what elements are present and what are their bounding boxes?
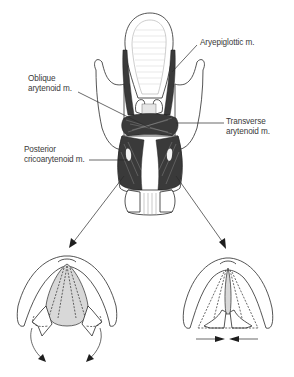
label-transverse-line1: Transverse bbox=[226, 117, 270, 127]
label-oblique-line2: arytenoid m. bbox=[28, 84, 72, 94]
arrowhead-right bbox=[219, 238, 226, 249]
label-posterior-line1: Posterior bbox=[24, 145, 85, 155]
posterior-cricoarytenoid-right bbox=[156, 136, 182, 190]
inset-adduction bbox=[183, 258, 273, 342]
glottis-closed bbox=[225, 268, 231, 314]
arytenoid-left-adducted bbox=[204, 310, 226, 328]
label-transverse-arytenoid: Transverse arytenoid m. bbox=[226, 117, 270, 137]
larynx-posterior-view bbox=[95, 13, 205, 215]
leader-aryepiglottic bbox=[172, 45, 197, 72]
label-transverse-line2: arytenoid m. bbox=[226, 127, 270, 137]
label-posterior-cricoarytenoid: Posterior cricoarytenoid m. bbox=[24, 145, 85, 165]
larynx-diagram bbox=[0, 0, 294, 377]
cricoid-arch-left bbox=[125, 190, 140, 212]
inset-abduction bbox=[17, 256, 117, 362]
label-oblique-arytenoid: Oblique arytenoid m. bbox=[28, 74, 72, 94]
posterior-cricoarytenoid-left bbox=[118, 136, 144, 190]
thyroid-cartilage-right bbox=[175, 60, 204, 150]
thyroid-cartilage bbox=[95, 60, 124, 150]
epiglottis bbox=[125, 13, 173, 98]
arytenoid-right-adducted bbox=[230, 310, 252, 328]
label-posterior-line2: cricoarytenoid m. bbox=[24, 155, 85, 165]
cricoid-arch-right bbox=[160, 190, 175, 212]
label-oblique-line1: Oblique bbox=[28, 74, 72, 84]
label-aryepiglottic: Aryepiglottic m. bbox=[200, 38, 254, 48]
arytenoid-muscles bbox=[122, 114, 178, 137]
